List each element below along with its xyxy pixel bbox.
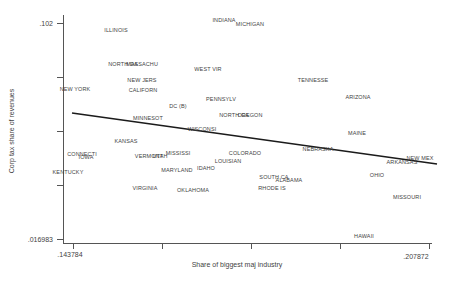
scatter-plot-figure: Corp tax share of revenues Share of bigg… — [0, 0, 457, 284]
state-label: IDAHO — [197, 165, 215, 171]
x-axis-title: Share of biggest maj industry — [192, 261, 283, 268]
state-label: MASSACHU — [126, 61, 158, 67]
state-label: NEW YORK — [60, 86, 91, 92]
state-label: OHIO — [370, 172, 384, 178]
state-label: INDIANA — [212, 17, 235, 23]
state-label: KANSAS — [115, 138, 138, 144]
state-label: NEW MEX — [406, 155, 433, 161]
state-label: KENTUCKY — [53, 169, 84, 175]
state-label: IOWA — [79, 154, 94, 160]
y-axis-max-tick-label: .102 — [39, 20, 53, 27]
x-axis-min-tick-label: .143784 — [57, 251, 82, 258]
state-label: WEST VIR — [194, 66, 221, 72]
state-label: CALIFORN — [129, 87, 158, 93]
state-label: MISSISSI — [166, 150, 191, 156]
state-label: HAWAII — [354, 233, 374, 239]
state-label: MISSOURI — [393, 194, 421, 200]
state-label: COLORADO — [229, 150, 261, 156]
state-label: MINNESOT — [133, 115, 163, 121]
state-label: VIRGINIA — [132, 185, 157, 191]
state-label: OKLAHOMA — [177, 187, 209, 193]
state-label: ALABAMA — [276, 177, 303, 183]
state-label: MAINE — [348, 130, 366, 136]
state-label: NEBRASKA — [303, 146, 334, 152]
state-label: MICHIGAN — [236, 21, 264, 27]
state-label: ILLINOIS — [104, 27, 128, 33]
state-label: DC (B) — [169, 103, 186, 109]
state-label: NEW JERS — [127, 77, 156, 83]
state-label: RHODE IS — [258, 185, 285, 191]
state-label: TENNESSE — [298, 77, 329, 83]
state-label: ARIZONA — [345, 94, 370, 100]
state-label: OREGON — [237, 112, 262, 118]
plot-axes-and-fit-line — [0, 0, 457, 284]
y-axis-title: Corp tax share of revenues — [8, 89, 15, 173]
state-label: LOUISIAN — [215, 158, 242, 164]
state-label: MARYLAND — [161, 167, 192, 173]
state-label: UTAH — [152, 153, 167, 159]
state-label: PENNSYLV — [206, 96, 236, 102]
x-axis-max-tick-label: .207872 — [403, 253, 428, 260]
y-axis-min-tick-label: .016983 — [28, 236, 53, 243]
state-label: WISCONSI — [188, 126, 217, 132]
